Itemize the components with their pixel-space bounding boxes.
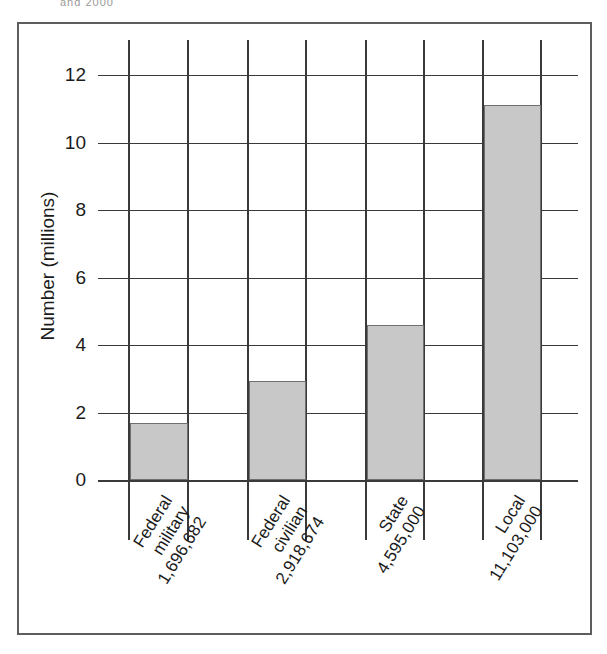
y-axis-title: Number (millions) [37,156,59,376]
y-axis-tick-label: 2 [52,403,86,422]
x-axis-category-label: Federalcivilian2,918,674 [193,492,329,654]
bar [484,105,541,480]
bottom-caption [22,642,582,654]
y-axis-tick-label: 10 [52,133,86,152]
x-axis-category-label: State4,595,000 [311,492,430,649]
chart-plot-area: 024681012Number (millions)Federalmilitar… [0,0,607,654]
x-axis-category-label: Federalmilitary1,696,682 [75,492,211,654]
horizontal-gridline [98,480,578,482]
x-axis-category-label: Local11,103,000 [428,492,547,649]
y-axis-tick-label: 0 [52,470,86,489]
bar [249,381,306,480]
horizontal-gridline [98,75,578,76]
y-axis-tick-label: 12 [52,65,86,84]
bar [130,423,188,480]
bar [367,325,424,480]
